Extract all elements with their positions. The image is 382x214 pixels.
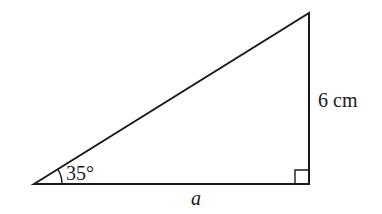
opposite-side-label: 6 cm <box>318 89 358 111</box>
angle-arc <box>58 169 62 184</box>
adjacent-side-label: a <box>191 187 201 209</box>
right-angle-marker <box>295 170 309 184</box>
angle-label: 35° <box>66 162 94 184</box>
triangle-diagram: 35° 6 cm a <box>0 0 382 214</box>
triangle-outline <box>34 13 309 184</box>
